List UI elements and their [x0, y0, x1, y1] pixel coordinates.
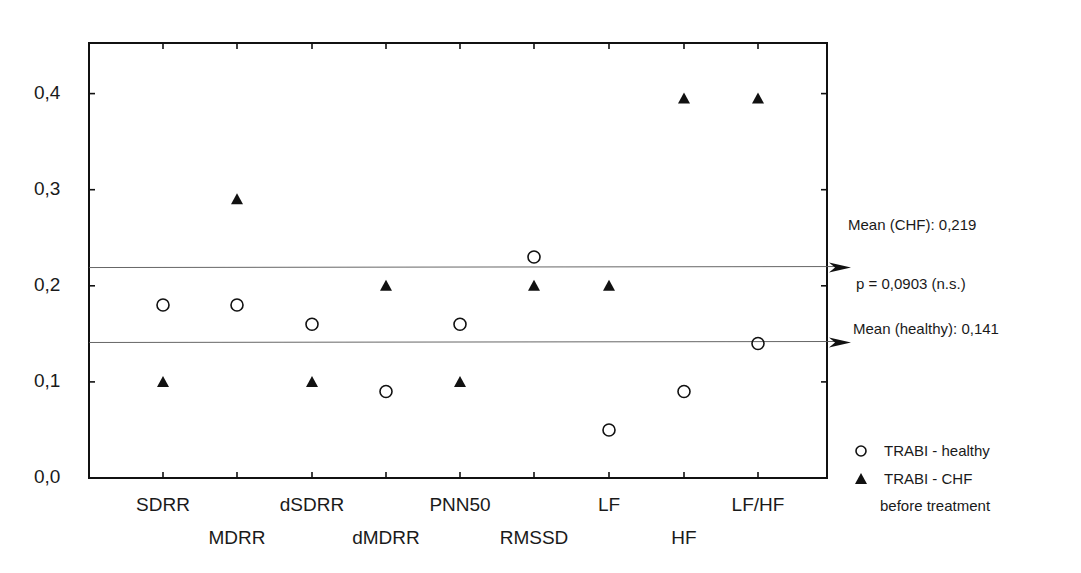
legend-chf: TRABI - CHF — [884, 470, 972, 487]
y-tick-label: 0,3 — [34, 178, 60, 200]
healthy-point — [306, 318, 318, 330]
chf-point — [157, 376, 169, 387]
legend-healthy: TRABI - healthy — [884, 442, 990, 459]
healthy-point — [528, 251, 540, 263]
legend-chf-subtitle: before treatment — [880, 497, 990, 514]
chf-point — [306, 376, 318, 387]
chf-point — [380, 280, 392, 291]
chf-point — [231, 193, 243, 204]
y-tick-label: 0,1 — [34, 370, 60, 392]
healthy-point — [380, 386, 392, 398]
x-tick-label: LF/HF — [732, 494, 785, 516]
healthy-point — [603, 424, 615, 436]
mean-healthy-label: Mean (healthy): 0,141 — [853, 320, 999, 337]
healthy-point — [454, 318, 466, 330]
x-tick-label: SDRR — [136, 494, 190, 516]
chf-point — [752, 92, 764, 103]
y-tick-label: 0,2 — [34, 274, 60, 296]
healthy-point — [752, 337, 764, 349]
healthy-point — [231, 299, 243, 311]
chf-point — [528, 280, 540, 291]
x-tick-label: RMSSD — [500, 527, 569, 549]
mean-lines — [89, 263, 851, 348]
x-tick-label: MDRR — [209, 527, 266, 549]
y-tick-label: 0,0 — [34, 466, 60, 488]
x-tick-label: HF — [671, 527, 696, 549]
y-axis — [89, 94, 827, 478]
y-tick-label: 0,4 — [34, 82, 60, 104]
healthy-point — [157, 299, 169, 311]
healthy-point — [678, 386, 690, 398]
p-value-label: p = 0,0903 (n.s.) — [856, 275, 966, 292]
plot-frame — [89, 43, 827, 478]
open-circle-icon — [854, 444, 868, 458]
chf-point — [603, 280, 615, 291]
chf-point — [454, 376, 466, 387]
x-axis — [163, 43, 758, 478]
x-tick-label: LF — [598, 494, 620, 516]
x-tick-label: dMDRR — [352, 527, 420, 549]
data-points — [157, 92, 764, 436]
filled-triangle-icon — [854, 472, 868, 486]
x-tick-label: dSDRR — [280, 494, 344, 516]
x-tick-label: PNN50 — [429, 494, 490, 516]
chf-point — [678, 92, 690, 103]
mean-chf-label: Mean (CHF): 0,219 — [848, 216, 976, 233]
